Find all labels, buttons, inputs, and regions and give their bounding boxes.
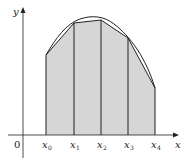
partition-label-x3: x 3 bbox=[124, 139, 134, 151]
x-axis-label: x bbox=[175, 139, 181, 150]
svg-text:3: 3 bbox=[130, 144, 134, 151]
svg-text:4: 4 bbox=[157, 144, 161, 151]
partition-label-x1: x 1 bbox=[70, 139, 80, 151]
partition-label-x0: x 0 bbox=[42, 139, 52, 151]
partition-label-x4: x 4 bbox=[151, 139, 161, 151]
svg-text:0: 0 bbox=[48, 144, 52, 151]
trapezoidal-rule-diagram: y x 0 x 0 x 1 x 2 x 3 x 4 bbox=[0, 0, 185, 163]
partition-label-x2: x 2 bbox=[97, 139, 107, 151]
svg-text:2: 2 bbox=[103, 144, 107, 151]
x-axis-arrow-icon bbox=[173, 133, 179, 138]
svg-text:1: 1 bbox=[76, 144, 80, 151]
y-axis-label: y bbox=[12, 6, 19, 17]
y-axis-arrow-icon bbox=[21, 7, 26, 13]
origin-label: 0 bbox=[14, 139, 20, 150]
